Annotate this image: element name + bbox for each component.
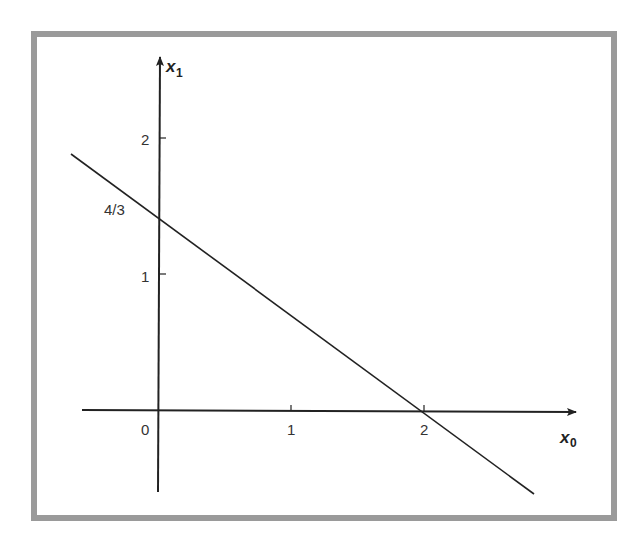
constraint-line — [71, 154, 534, 494]
x-axis-label-sub: 0 — [570, 436, 577, 450]
origin-label: 0 — [141, 421, 149, 438]
chart-plot: 2 1 4/3 0 1 2 x 1 x 0 — [0, 0, 628, 548]
intercept-label: 4/3 — [104, 201, 125, 218]
y-tick-label-1: 1 — [141, 268, 149, 285]
x-tick-label-2: 2 — [420, 421, 428, 438]
y-axis-label-sub: 1 — [176, 66, 183, 80]
y-tick-label-2: 2 — [141, 131, 149, 148]
x-axis — [82, 410, 576, 412]
x-tick-label-1: 1 — [287, 421, 295, 438]
